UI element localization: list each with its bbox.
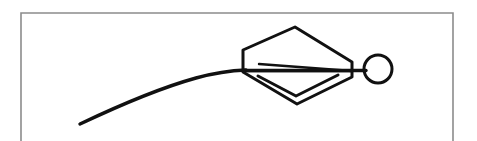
- figure-svg: Line drawing figure Black ink line drawi…: [0, 0, 477, 141]
- drawing-canvas: Line drawing figure Black ink line drawi…: [0, 0, 477, 141]
